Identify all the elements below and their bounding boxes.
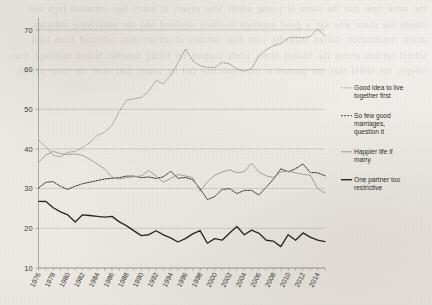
x-tick-label: 2008 [264,271,277,288]
y-tick-label: 40 [24,145,32,154]
x-tick-label: 2010 [278,271,291,288]
x-tick-label: 2012 [293,271,306,288]
series-line [39,29,325,157]
line-chart: 10203040506070 1976197819801982198419861… [0,0,432,305]
legend-label: Happier life if [354,148,393,156]
x-tick-label: 1994 [161,271,174,288]
x-tick-label: 1996 [176,271,189,288]
series-group [38,29,325,246]
gridlines [39,30,326,268]
x-axis-ticks: 1976197819801982198419861988199019921994… [29,268,325,288]
legend-label: Good idea to live [354,84,404,91]
series-line [39,164,326,200]
x-tick-label: 2002 [220,271,233,288]
legend-label: restrictive [354,184,383,191]
x-tick-label: 2006 [249,271,262,288]
y-axis-ticks: 10203040506070 [24,26,38,273]
x-tick-label: 1982 [73,271,86,288]
series-line [39,201,325,246]
legend-label: So few good [354,112,391,120]
x-tick-label: 2014 [308,271,321,288]
x-tick-label: 1988 [117,271,130,288]
x-tick-label: 1978 [43,271,56,288]
y-tick-label: 20 [24,224,32,233]
x-tick-label: 1976 [29,271,42,288]
x-tick-label: 2004 [234,271,247,288]
legend-label: One partner too [354,176,401,184]
legend-label: marry [354,156,372,164]
x-tick-label: 2000 [205,271,218,288]
y-tick-label: 10 [24,264,32,273]
x-tick-label: 1986 [102,271,115,288]
legend-label: marriages, [354,120,385,128]
y-tick-label: 60 [24,65,32,74]
series-line [38,151,325,192]
x-tick-label: 1990 [131,271,144,288]
chart-canvas: 10203040506070 1976197819801982198419861… [0,0,432,305]
x-tick-label: 1980 [58,271,71,288]
chart-legend: Good idea to livetogether firstSo few go… [341,84,404,191]
legend-label: question it [354,128,384,136]
x-tick-label: 1992 [146,271,159,288]
y-tick-label: 50 [24,105,32,114]
legend-label: together first [354,92,391,100]
x-tick-label: 1984 [87,271,100,288]
x-tick-label: 1998 [190,271,203,288]
y-tick-label: 70 [24,26,32,35]
y-tick-label: 30 [24,184,32,193]
